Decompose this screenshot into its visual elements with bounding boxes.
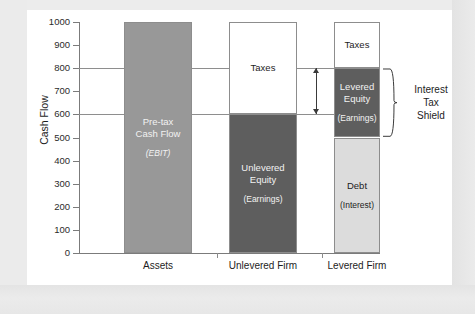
y-axis-tick-label: 100	[38, 224, 70, 235]
y-axis-tick-label: 400	[38, 155, 70, 166]
bar-segment: Taxes	[229, 22, 297, 114]
bar-segment-label: Debt	[347, 180, 367, 192]
bar-stack: TaxesUnlevered Equity(Earnings)	[229, 22, 297, 253]
bar-segment: Debt(Interest)	[334, 138, 380, 254]
bar-stack: Pre-tax Cash Flow(EBIT)	[124, 22, 192, 253]
arrow-shaft	[316, 68, 317, 114]
bar-segment-label: Taxes	[345, 39, 370, 51]
y-axis-tick-label: 300	[38, 178, 70, 189]
bar-segment: Levered Equity(Earnings)	[334, 68, 380, 137]
page-edge-top	[0, 0, 475, 10]
bar-segment: Pre-tax Cash Flow(EBIT)	[124, 22, 192, 253]
x-axis-category-label: Unlevered Firm	[213, 260, 313, 271]
bar-stack: TaxesLevered Equity(Earnings)Debt(Intere…	[334, 22, 380, 253]
y-axis-tick-label: 0	[38, 247, 70, 258]
arrow-head-down-icon	[313, 109, 319, 114]
page-edge-right	[452, 0, 475, 314]
arrow-head-up-icon	[313, 68, 319, 73]
x-axis-category-label: Assets	[108, 260, 208, 271]
y-axis-tick-label: 900	[38, 39, 70, 50]
bar-segment-sublabel: (Interest)	[340, 199, 374, 211]
bar-segment: Unlevered Equity(Earnings)	[229, 114, 297, 253]
bar-segment-label: Pre-tax Cash Flow	[136, 116, 181, 140]
bar-segment-label: Levered Equity	[340, 81, 374, 105]
chart-panel: Cash Flow 100090080070060050040030020010…	[27, 10, 452, 285]
gridline-600	[79, 114, 357, 115]
interest-tax-shield-label: Interest Tax Shield	[402, 83, 460, 122]
bar-segment-label: Unlevered Equity	[241, 162, 284, 186]
x-axis-separator-tick	[322, 253, 323, 258]
page-edge-bottom	[0, 285, 475, 314]
y-axis-tick-label: 700	[38, 85, 70, 96]
y-axis-tick-label: 500	[38, 132, 70, 143]
y-axis-tick-label: 600	[38, 108, 70, 119]
page-edge-left	[0, 0, 27, 314]
bar-segment-sublabel: (Earnings)	[337, 112, 376, 124]
bar-segment: Taxes	[334, 22, 380, 68]
y-axis-tick-label: 800	[38, 62, 70, 73]
x-axis-line	[79, 253, 380, 254]
y-axis-tick-label: 1000	[38, 16, 70, 27]
bar-segment-sublabel: (Earnings)	[243, 193, 282, 205]
tax-saving-arrow	[313, 68, 321, 114]
plot-area: Pre-tax Cash Flow(EBIT)TaxesUnlevered Eq…	[79, 22, 357, 253]
y-axis-tick-label: 200	[38, 201, 70, 212]
interest-tax-shield-annotation: Interest Tax Shield	[382, 68, 462, 137]
x-axis-category-label: Levered Firm	[307, 260, 407, 271]
figure-canvas: Cash Flow 100090080070060050040030020010…	[0, 0, 475, 314]
x-axis-separator-tick	[217, 253, 218, 258]
bar-segment-label: Taxes	[251, 62, 276, 74]
bar-segment-sublabel: (EBIT)	[146, 147, 171, 159]
